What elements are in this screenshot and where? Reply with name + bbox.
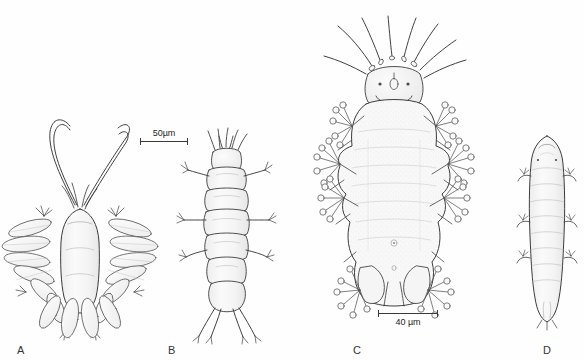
panel-c-body — [338, 100, 450, 307]
scale-bar-40um-label: 40 µm — [378, 317, 438, 327]
panel-a-body — [61, 209, 100, 313]
panel-label-c: C — [353, 344, 361, 356]
scale-bar-40um-rule — [378, 310, 438, 317]
scale-bar-50um: 50µm — [140, 128, 188, 145]
figure-illustration — [0, 0, 584, 361]
panel-label-d: D — [543, 344, 551, 356]
scale-bar-50um-label: 50µm — [140, 128, 188, 138]
panel-b-terminal-segment — [209, 281, 246, 312]
figure-plate: 50µm 40 µm A B C D — [0, 0, 584, 361]
scale-bar-40um: 40 µm — [378, 310, 438, 327]
scale-bar-50um-rule — [140, 138, 188, 145]
panel-label-a: A — [17, 344, 25, 356]
panel-label-b: B — [168, 344, 176, 356]
panel-b-segments — [204, 188, 250, 285]
panel-d-body — [529, 136, 564, 322]
